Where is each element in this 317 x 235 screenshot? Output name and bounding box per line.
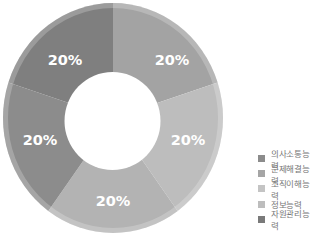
legend-swatch — [258, 185, 265, 192]
slice-label-5: 20% — [48, 52, 83, 68]
legend-swatch — [258, 216, 265, 223]
legend-swatch — [258, 155, 265, 162]
slice-label-2: 20% — [171, 132, 206, 148]
donut-chart: 20% 20% 20% 20% 20% — [0, 0, 230, 235]
legend-label: 자원관리능력 — [271, 207, 317, 231]
legend-item-resource-management: 자원관리능력 — [258, 212, 317, 227]
legend-swatch — [258, 170, 265, 177]
legend: 의사소통능력 문제해결능력 조직이해능력 정보능력 자원관리능력 — [258, 151, 317, 227]
slice-label-3: 20% — [96, 193, 131, 209]
donut-hole — [65, 72, 161, 170]
legend-swatch — [258, 201, 265, 208]
legend-item-organization: 조직이해능력 — [258, 181, 317, 196]
slice-label-1: 20% — [155, 52, 190, 68]
slice-label-4: 20% — [23, 132, 58, 148]
